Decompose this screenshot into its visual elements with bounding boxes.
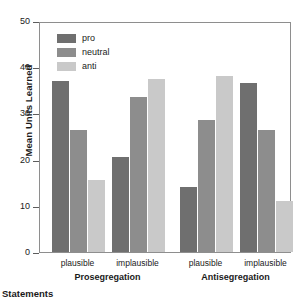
x-subgroup-label: implausible bbox=[226, 259, 301, 268]
legend-item: anti bbox=[57, 60, 110, 72]
y-tick-label: 10 bbox=[0, 202, 30, 211]
bar-pro bbox=[112, 157, 129, 252]
y-tick-label: 20 bbox=[0, 156, 30, 165]
bar-anti bbox=[148, 79, 165, 252]
bar-anti bbox=[88, 180, 105, 252]
y-tick-mark bbox=[33, 253, 39, 254]
bar-pro bbox=[240, 83, 257, 252]
bar-neutral bbox=[258, 130, 275, 252]
bar-pro bbox=[180, 187, 197, 252]
bar-pro bbox=[52, 81, 69, 252]
y-tick-label: 30 bbox=[0, 109, 30, 118]
legend: pro neutral anti bbox=[57, 32, 110, 74]
legend-item: neutral bbox=[57, 46, 110, 58]
x-group-label: Prosegregation bbox=[53, 272, 163, 282]
bar-neutral bbox=[70, 130, 87, 252]
legend-item: pro bbox=[57, 32, 110, 44]
y-tick-label: 0 bbox=[0, 248, 30, 257]
bar-chart: Mean Units Learned 01020304050 pro neutr… bbox=[0, 0, 300, 307]
legend-label-neutral: neutral bbox=[82, 48, 110, 57]
legend-label-pro: pro bbox=[82, 34, 95, 43]
bar-anti bbox=[276, 201, 293, 252]
legend-swatch-pro bbox=[57, 34, 76, 43]
x-group-label: Antisegregation bbox=[181, 272, 291, 282]
bar-neutral bbox=[198, 120, 215, 252]
y-tick-label: 50 bbox=[0, 17, 30, 26]
legend-swatch-neutral bbox=[57, 48, 76, 57]
x-axis-title: Statements bbox=[2, 288, 53, 299]
bar-anti bbox=[216, 76, 233, 252]
legend-label-anti: anti bbox=[82, 62, 97, 71]
y-tick-label: 40 bbox=[0, 63, 30, 72]
legend-swatch-anti bbox=[57, 62, 76, 71]
plot-area: pro neutral anti bbox=[39, 22, 291, 253]
bar-neutral bbox=[130, 97, 147, 252]
